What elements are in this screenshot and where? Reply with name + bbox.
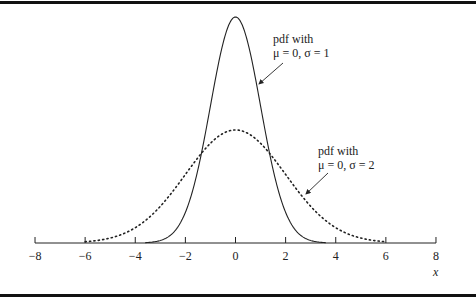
chart: −8−6−4−202468 x pdf with μ = 0, σ = 1 pd… bbox=[0, 0, 476, 303]
x-tick-label: −4 bbox=[129, 249, 142, 263]
annotation-sigma-1: pdf with μ = 0, σ = 1 bbox=[259, 32, 329, 84]
annotation-1-line2: μ = 0, σ = 1 bbox=[273, 46, 329, 60]
annotation-2-line2: μ = 0, σ = 2 bbox=[318, 158, 374, 172]
x-tick-label: 4 bbox=[333, 249, 339, 263]
x-tick-label: −2 bbox=[179, 249, 192, 263]
annotation-2-arrow-icon bbox=[306, 173, 328, 194]
annotation-sigma-2: pdf with μ = 0, σ = 2 bbox=[306, 144, 374, 194]
x-tick-label: 0 bbox=[233, 249, 239, 263]
x-axis: −8−6−4−202468 x bbox=[29, 237, 439, 279]
x-tick-label: 8 bbox=[433, 249, 439, 263]
x-tick-label: 6 bbox=[383, 249, 389, 263]
annotation-2-line1: pdf with bbox=[318, 144, 358, 158]
x-axis-label: x bbox=[432, 265, 439, 279]
annotation-1-line1: pdf with bbox=[273, 32, 313, 46]
annotation-1-arrow-icon bbox=[259, 63, 283, 84]
x-tick-label: −6 bbox=[79, 249, 92, 263]
x-tick-label: −8 bbox=[29, 249, 42, 263]
x-tick-label: 2 bbox=[283, 249, 289, 263]
